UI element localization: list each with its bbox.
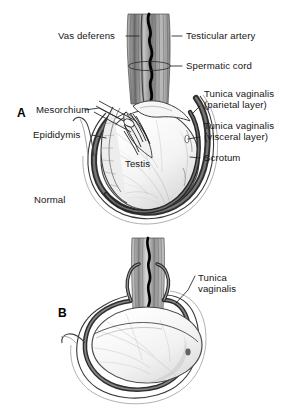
label-tunica-vaginalis-parietal-line1: Tunica vaginalis xyxy=(204,88,274,99)
label-tunica-vaginalis-visceral-line2: (visceral layer) xyxy=(204,131,268,142)
label-tunica-vaginalis-b-line1: Tunica xyxy=(198,272,227,283)
label-normal: Normal xyxy=(34,194,66,205)
label-tunica-vaginalis-b-line2: vaginalis xyxy=(198,283,236,294)
label-tunica-vaginalis-visceral-line1: Tunica vaginalis xyxy=(204,120,274,131)
anatomy-illustration xyxy=(0,0,297,411)
attachment-nodule-b xyxy=(185,349,190,356)
panel-a-artwork xyxy=(73,14,218,224)
panel-letter-a: A xyxy=(17,106,26,120)
leader-tunica-b xyxy=(176,276,195,303)
leader-tunica-parietal xyxy=(193,106,200,113)
label-mesorchium: Mesorchium xyxy=(36,104,89,115)
panel-letter-b: B xyxy=(58,306,67,320)
label-testis: Testis xyxy=(125,158,150,169)
anatomy-figure: A Vas deferens Testicular artery Spermat… xyxy=(0,0,297,411)
testis-b xyxy=(92,307,202,383)
label-vas-deferens: Vas deferens xyxy=(58,30,115,41)
panel-b-artwork xyxy=(61,238,206,404)
spermatic-cord-structure xyxy=(127,14,170,112)
label-spermatic-cord: Spermatic cord xyxy=(186,60,252,71)
spermatic-cord-structure-b xyxy=(132,238,165,316)
label-testicular-artery: Testicular artery xyxy=(186,30,255,41)
label-tunica-vaginalis-parietal-line2: (parietal layer) xyxy=(204,99,267,110)
label-scrotum: Scrotum xyxy=(204,152,240,163)
label-epididymis: Epididymis xyxy=(33,129,80,140)
